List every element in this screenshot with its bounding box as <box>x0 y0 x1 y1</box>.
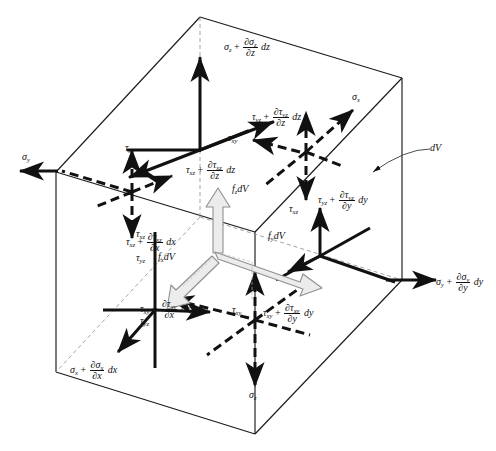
label-tau-yz-bottom: τyz <box>140 316 149 326</box>
label-sigma-x-plus-dx: σx + ∂σx∂x dx <box>70 360 117 382</box>
label-sigma-z-plus-dz: σz + ∂σz∂z dz <box>224 37 270 59</box>
arrow-tau-xy-plus-dy <box>288 256 320 272</box>
edge-hidden-bottom-right <box>200 217 402 280</box>
label-tau-xz-plus-dz: τxz + ∂τxz∂z dz <box>186 160 235 182</box>
label-tau-xy-left: τxy <box>125 143 134 153</box>
arrow-stem-sigma-y-plus <box>320 256 395 282</box>
label-sigma-y: σy <box>22 152 30 162</box>
stress-element-diagram: { "figure": { "title": "Differential str… <box>0 0 496 451</box>
label-sigma-x: σx <box>352 92 360 102</box>
label-body-force-fx: fxdV <box>158 252 175 262</box>
arrow-sigma-y-stem <box>62 171 132 192</box>
label-tau-xz-right: τxz <box>289 204 298 214</box>
arrow-stem-front-diag-down <box>207 320 255 355</box>
arrow-sigma-x-back <box>306 110 353 152</box>
arrow-tau-xy-back-right-left <box>253 140 300 152</box>
stress-cross-right-face <box>276 208 436 282</box>
label-sigma-y-plus-dy: σy + ∂σy∂y dy <box>436 272 483 294</box>
label-dv: dV <box>430 143 441 153</box>
arrow-body-force-fz <box>206 188 230 253</box>
arrow-body-force-fy <box>215 252 322 296</box>
label-tau-yz-left: τyz <box>136 253 145 263</box>
diagram-canvas <box>0 0 496 451</box>
arrow-stem-back-right-diag <box>264 152 306 186</box>
arrow-stem-right-diag-up <box>320 228 370 256</box>
arrow-tau-xy-back-diag <box>132 176 172 192</box>
label-tau-yz-plus-dz: τyz + ∂τyz∂z dz <box>252 107 301 129</box>
arrow-stem-back-top <box>200 131 248 150</box>
label-tau-xz-left: τxz <box>136 229 145 239</box>
arrow-stem-back-right-h <box>306 152 345 167</box>
body-force-arrows <box>167 188 322 309</box>
label-sigma-z: σz <box>249 390 257 400</box>
label-body-force-fy: fydV <box>268 231 285 241</box>
label-tau-yz-plus-dy: τyz + ∂τyz∂y dy <box>318 190 368 212</box>
label-tau-xy-plus-dy: τxy + ∂τxy∂y dy <box>263 303 313 325</box>
stress-cross-back-left-face <box>20 150 172 238</box>
label-tau-xy-front: τxy <box>232 305 241 315</box>
label-body-force-fz: fzdV <box>232 184 248 194</box>
label-tau-xy-top: τxy <box>228 133 237 143</box>
arrow-stem-back-left-diag <box>95 192 132 207</box>
